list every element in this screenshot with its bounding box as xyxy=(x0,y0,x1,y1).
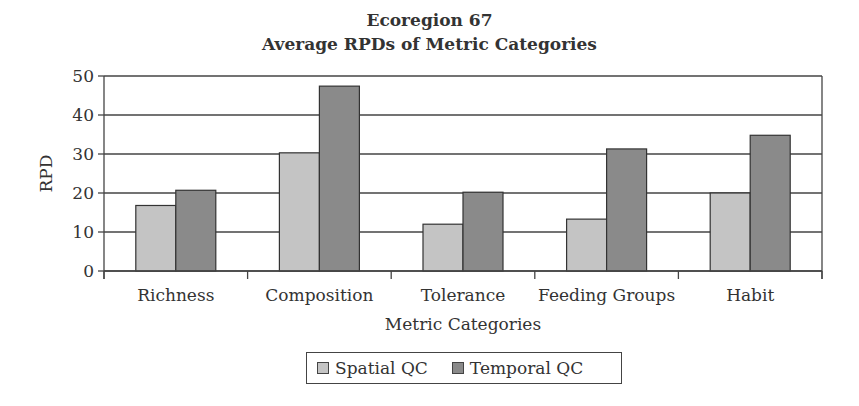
legend: Spatial QC Temporal QC xyxy=(306,352,622,384)
bar-spatial-qc xyxy=(567,219,607,271)
legend-label-spatial: Spatial QC xyxy=(335,358,428,378)
bar-temporal-qc xyxy=(319,86,359,271)
bar-temporal-qc xyxy=(750,135,790,271)
bar-temporal-qc xyxy=(463,192,503,271)
bar-temporal-qc xyxy=(607,149,647,271)
y-tick-label: 20 xyxy=(72,183,94,203)
y-tick-label: 40 xyxy=(72,105,94,125)
spatial-swatch-icon xyxy=(317,362,329,374)
legend-label-temporal: Temporal QC xyxy=(470,358,583,378)
x-tick-label: Richness xyxy=(137,285,214,305)
x-tick-label: Habit xyxy=(726,285,774,305)
bar-spatial-qc xyxy=(710,193,750,271)
bar-spatial-qc xyxy=(136,205,176,271)
bar-spatial-qc xyxy=(423,224,463,271)
legend-item-temporal: Temporal QC xyxy=(442,358,583,378)
y-tick-label: 50 xyxy=(72,66,94,86)
x-axis-label: Metric Categories xyxy=(385,314,541,334)
x-tick-label: Composition xyxy=(265,285,373,305)
bar-chart: 01020304050RichnessCompositionToleranceF… xyxy=(0,0,859,406)
legend-item-spatial: Spatial QC xyxy=(307,358,428,378)
y-tick-label: 30 xyxy=(72,144,94,164)
x-tick-label: Tolerance xyxy=(421,285,506,305)
bar-temporal-qc xyxy=(176,190,216,271)
bar-spatial-qc xyxy=(279,153,319,271)
x-tick-label: Feeding Groups xyxy=(538,285,675,305)
temporal-swatch-icon xyxy=(452,362,464,374)
y-tick-label: 0 xyxy=(83,261,94,281)
y-axis-label: RPD xyxy=(36,155,56,193)
y-tick-label: 10 xyxy=(72,222,94,242)
